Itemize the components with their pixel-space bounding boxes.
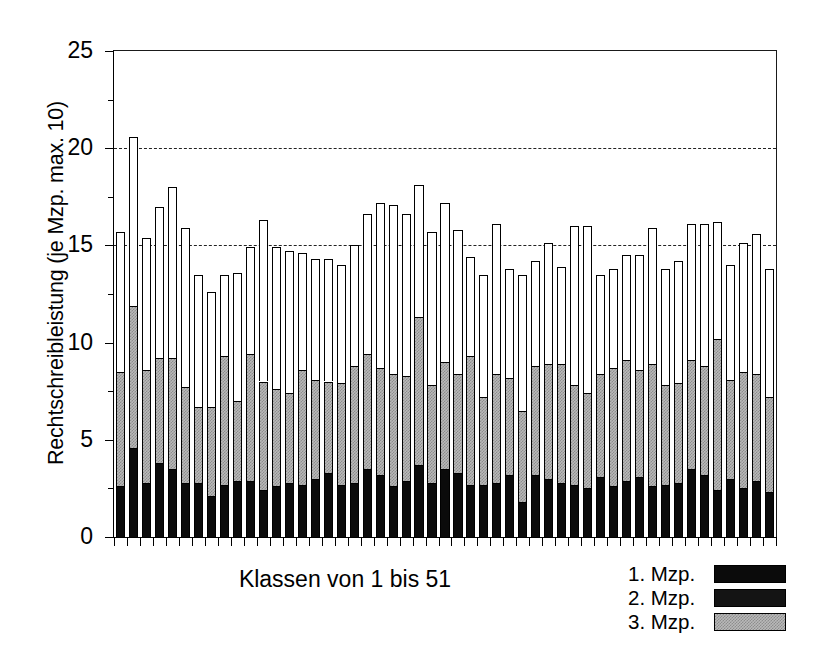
y-axis-title: Rechtschreibleistung (je Mzp. max. 10) [44, 33, 84, 533]
y-tick-label: 10 [47, 328, 93, 355]
legend: 1. Mzp. 2. Mzp. 3. Mzp. [628, 562, 793, 634]
bar-segment [492, 483, 501, 537]
x-tick [763, 537, 764, 546]
x-tick [322, 537, 323, 546]
x-tick [374, 537, 375, 546]
y-tick-label: 20 [47, 134, 93, 161]
bar-segment [337, 383, 346, 484]
legend-item: 1. Mzp. [628, 562, 793, 585]
x-tick [179, 537, 180, 546]
bar [557, 51, 566, 537]
x-tick [218, 537, 219, 546]
bar [311, 51, 320, 537]
bar [687, 51, 696, 537]
x-tick [400, 537, 401, 546]
bar [492, 51, 501, 537]
bar-segment [414, 317, 423, 465]
bar-segment-outline [311, 259, 320, 380]
bar-segment [168, 469, 177, 537]
bar-segment [531, 475, 540, 537]
bar-segment [518, 411, 527, 502]
bar-segment [713, 490, 722, 537]
bar-segment [142, 370, 151, 483]
bar-segment-outline [557, 267, 566, 364]
bar [453, 51, 462, 537]
bar-segment [674, 383, 683, 482]
bar [363, 51, 372, 537]
bar-segment [700, 475, 709, 537]
bar-segment-outline [635, 255, 644, 370]
bar [181, 51, 190, 537]
bar-segment [324, 382, 333, 473]
x-tick [244, 537, 245, 546]
bar-segment-outline [739, 243, 748, 371]
bar-segment [440, 362, 449, 469]
x-tick [296, 537, 297, 546]
bar-segment [427, 385, 436, 482]
bar-segment-outline [298, 253, 307, 370]
x-tick [750, 537, 751, 546]
bar-segment-outline [207, 292, 216, 407]
bar-segment [479, 485, 488, 537]
bar-segment [194, 483, 203, 537]
x-tick [477, 537, 478, 546]
bar-segment-outline [544, 243, 553, 364]
y-tick [105, 245, 114, 246]
bar-segment [661, 385, 670, 484]
bar [440, 51, 449, 537]
bar-segment [505, 475, 514, 537]
bar-segment [453, 473, 462, 537]
bar-segment [557, 483, 566, 537]
x-tick [127, 537, 128, 546]
bar-segment-outline [622, 255, 631, 360]
bar-segment [752, 481, 761, 537]
bar-segment-outline [466, 257, 475, 356]
bar [726, 51, 735, 537]
bar-segment [402, 481, 411, 537]
bar [505, 51, 514, 537]
x-tick [698, 537, 699, 546]
bar-segment-outline [700, 224, 709, 366]
bar [233, 51, 242, 537]
bar-segment [596, 374, 605, 477]
bar [298, 51, 307, 537]
x-tick [348, 537, 349, 546]
y-tick [105, 148, 114, 149]
bar-series-group [114, 51, 776, 537]
x-tick [192, 537, 193, 546]
x-tick [283, 537, 284, 546]
bar [596, 51, 605, 537]
bar-segment [402, 376, 411, 481]
x-tick [529, 537, 530, 546]
bar-segment [466, 356, 475, 484]
bar-segment [376, 475, 385, 537]
bar-segment-outline [194, 275, 203, 407]
bar-segment-outline [324, 259, 333, 381]
x-tick [426, 537, 427, 546]
bar-segment [570, 485, 579, 537]
bar [116, 51, 125, 537]
bar-segment-outline [246, 247, 255, 354]
bar [583, 51, 592, 537]
bar [518, 51, 527, 537]
bar-segment [414, 465, 423, 537]
bar-segment [713, 339, 722, 491]
y-tick [105, 51, 114, 52]
bar-segment [259, 490, 268, 537]
bar-segment [337, 485, 346, 537]
bar-segment-outline [583, 226, 592, 393]
bar [674, 51, 683, 537]
bar-segment-outline [129, 137, 138, 306]
bar-segment [350, 366, 359, 483]
bar-segment-outline [440, 203, 449, 362]
bar-segment [609, 486, 618, 537]
legend-swatch-1 [714, 565, 786, 583]
bar-segment [116, 486, 125, 537]
x-tick [335, 537, 336, 546]
chart-figure: Rechtschreibleistung (je Mzp. max. 10) 0… [0, 0, 821, 668]
bar-segment [142, 483, 151, 537]
x-tick [153, 537, 154, 546]
x-tick [114, 537, 115, 546]
bar-segment-outline [142, 238, 151, 370]
bar [765, 51, 774, 537]
